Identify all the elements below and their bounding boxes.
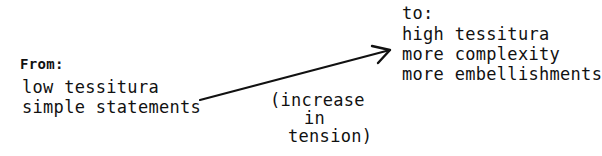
to-line-high-tessitura: high tessitura — [402, 24, 550, 44]
annotation-tension: tension) — [288, 126, 372, 146]
to-line-more-embellishments: more embellishments — [402, 64, 602, 84]
from-heading: From: — [20, 54, 64, 74]
from-line-simple-statements: simple statements — [22, 97, 201, 117]
from-block: From: — [20, 54, 64, 74]
to-line-more-complexity: more complexity — [402, 44, 560, 64]
annotation-in: in — [304, 108, 325, 128]
from-line-low-tessitura: low tessitura — [22, 77, 159, 97]
annotation-increase: (increase — [270, 90, 365, 110]
to-heading: to: — [402, 3, 434, 23]
